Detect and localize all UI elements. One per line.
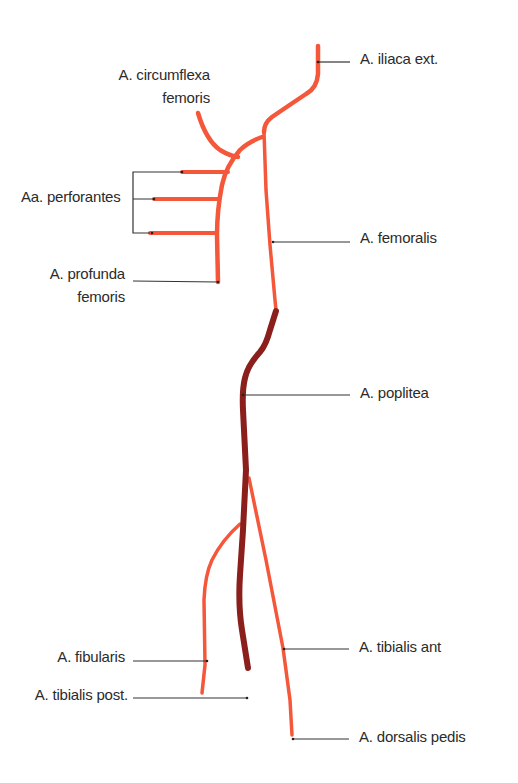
label-profunda-femoris: A. profunda femoris (20, 262, 125, 308)
label-fibularis: A. fibularis (20, 645, 125, 668)
label-dorsalis-pedis: A. dorsalis pedis (359, 725, 466, 748)
label-tibialis-post: A. tibialis post. (0, 683, 128, 706)
label-circumflexa-line1: A. circumflexa (80, 63, 210, 86)
label-poplitea: A. poplitea (360, 381, 429, 404)
vessel-poplitea (239, 311, 276, 668)
label-profunda-line2: femoris (20, 285, 125, 308)
label-circumflexa-femoris: A. circumflexa femoris (80, 63, 210, 109)
label-circumflexa-line2: femoris (80, 86, 210, 109)
label-femoralis: A. femoralis (360, 226, 437, 249)
leader-perforantes-bracket (133, 172, 182, 233)
vessel-femoralis (264, 132, 276, 310)
vessel-tibialis-ant (249, 478, 292, 735)
label-tibialis-ant: A. tibialis ant (359, 635, 441, 658)
vessel-profunda-femoris (217, 137, 262, 282)
leader-profunda (133, 281, 218, 282)
vessel-fibularis (202, 524, 240, 693)
vessel-circumflexa-femoris (198, 113, 238, 157)
label-iliaca-ext: A. iliaca ext. (360, 47, 438, 70)
vessel-iliaca-ext (264, 46, 318, 132)
label-profunda-line1: A. profunda (20, 262, 125, 285)
label-perforantes: Aa. perforantes (21, 185, 121, 208)
